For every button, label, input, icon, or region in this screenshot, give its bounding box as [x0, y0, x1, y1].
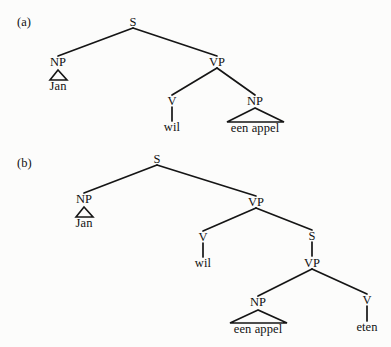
node-b-s-embedded: S: [308, 230, 315, 243]
node-b-np-subject: NP: [76, 193, 92, 206]
node-b-vp-embedded: VP: [304, 257, 320, 270]
branch-line-branch-s-vp: [157, 165, 256, 196]
branch-lines-group: [50, 28, 367, 323]
b-terminal-wil: wil: [195, 257, 211, 270]
panel-label-b: (b): [17, 157, 32, 170]
node-b-v-wil: V: [198, 231, 207, 244]
branch-line-branch-vp-v: [203, 208, 256, 231]
node-a-vp: VP: [209, 56, 225, 69]
branch-line-branch-s-vp: [133, 28, 217, 56]
node-b-s-root: S: [153, 153, 160, 166]
b-terminal-een-appel: een appel: [234, 323, 282, 336]
branch-line-branch-vp-np: [258, 269, 312, 296]
branch-line-branch-s-np: [84, 165, 157, 193]
node-a-s-root: S: [129, 16, 136, 29]
branch-line-branch-vp-np: [217, 68, 255, 95]
node-a-np-subject: NP: [50, 56, 66, 69]
b-terminal-eten: eten: [356, 321, 377, 334]
branch-line-branch-vp-s: [256, 208, 312, 230]
branch-line-branch-vp-v-eten: [312, 269, 367, 294]
a-terminal-jan: Jan: [50, 80, 67, 93]
node-b-v-eten: V: [362, 294, 371, 307]
b-terminal-jan: Jan: [76, 217, 93, 230]
branch-line-branch-vp-v: [172, 68, 217, 95]
tree-lines-layer: [0, 0, 391, 347]
syntax-tree-figure: (a)SNPVPVNPJanwileen appel(b)SNPVPVSVPNP…: [0, 0, 391, 347]
node-a-v-wil: V: [167, 95, 176, 108]
panel-label-a: (a): [17, 16, 31, 29]
node-a-np-object: NP: [247, 95, 263, 108]
a-terminal-een-appel: een appel: [231, 122, 279, 135]
branch-line-branch-s-np: [58, 28, 133, 56]
a-terminal-wil: wil: [164, 121, 180, 134]
node-b-vp-matrix: VP: [248, 196, 264, 209]
node-b-np-object: NP: [250, 296, 266, 309]
